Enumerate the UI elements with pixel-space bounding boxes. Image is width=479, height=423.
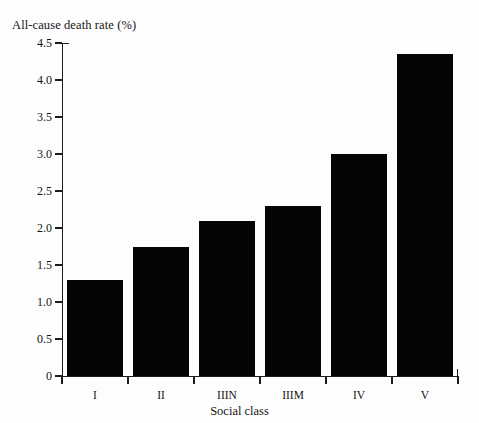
y-axis-line xyxy=(62,43,63,377)
x-axis-tick xyxy=(61,377,62,384)
y-axis-tick-label: 4.5 xyxy=(6,37,52,49)
y-axis-tick-label: 1.0 xyxy=(6,296,52,308)
y-axis-tick-label: 0 xyxy=(6,370,52,382)
x-axis-tick xyxy=(391,377,392,384)
y-axis-tick-label-wrap: 3.5 xyxy=(0,111,52,123)
x-axis-tick xyxy=(259,377,260,384)
y-axis-tick-label-wrap: 4.0 xyxy=(0,74,52,86)
x-axis-tick xyxy=(457,377,458,384)
y-axis-tick xyxy=(55,190,62,191)
y-axis-top-cap xyxy=(62,43,69,44)
y-axis-tick xyxy=(55,264,62,265)
y-axis-tick xyxy=(55,301,62,302)
x-axis-tick-label: IIIM xyxy=(260,389,326,401)
y-axis-tick-label: 1.5 xyxy=(6,259,52,271)
x-axis-right-cap xyxy=(457,369,458,377)
y-axis-tick-label: 3.5 xyxy=(6,111,52,123)
y-axis-tick xyxy=(55,338,62,339)
x-axis-tick-label: IIIN xyxy=(194,389,260,401)
bar-iiin xyxy=(199,221,255,376)
chart-figure: All-cause death rate (%) 00.51.01.52.02.… xyxy=(0,0,479,423)
y-axis-tick-label: 2.0 xyxy=(6,222,52,234)
y-axis-tick-label-wrap: 1.0 xyxy=(0,296,52,308)
x-axis-tick-label: II xyxy=(128,389,194,401)
bar-v xyxy=(397,54,453,376)
y-axis-tick-label: 0.5 xyxy=(6,333,52,345)
y-axis-tick xyxy=(55,42,62,43)
x-axis-tick-label: V xyxy=(392,389,458,401)
y-axis-tick-label-wrap: 2.0 xyxy=(0,222,52,234)
bar-i xyxy=(67,280,123,376)
y-axis-tick-label: 3.0 xyxy=(6,148,52,160)
y-axis-tick xyxy=(55,79,62,80)
x-axis-tick xyxy=(325,377,326,384)
y-axis-tick-label-wrap: 0.5 xyxy=(0,333,52,345)
y-axis-tick-label-wrap: 3.0 xyxy=(0,148,52,160)
x-axis-tick xyxy=(193,377,194,384)
y-axis-tick xyxy=(55,227,62,228)
y-axis-tick-label-wrap: 0 xyxy=(0,370,52,382)
y-axis-tick xyxy=(55,116,62,117)
y-axis-tick-label: 2.5 xyxy=(6,185,52,197)
x-axis-tick xyxy=(127,377,128,384)
y-axis-tick-label: 4.0 xyxy=(6,74,52,86)
x-axis-tick-label: IV xyxy=(326,389,392,401)
y-axis-tick-label-wrap: 4.5 xyxy=(0,37,52,49)
bar-iv xyxy=(331,154,387,376)
y-axis-title: All-cause death rate (%) xyxy=(12,18,136,33)
x-axis-tick-label: I xyxy=(62,389,128,401)
y-axis-tick-label-wrap: 2.5 xyxy=(0,185,52,197)
y-axis-tick-label-wrap: 1.5 xyxy=(0,259,52,271)
y-axis-tick xyxy=(55,153,62,154)
bar-ii xyxy=(133,247,189,377)
x-axis-title: Social class xyxy=(0,404,479,419)
bar-iiim xyxy=(265,206,321,376)
